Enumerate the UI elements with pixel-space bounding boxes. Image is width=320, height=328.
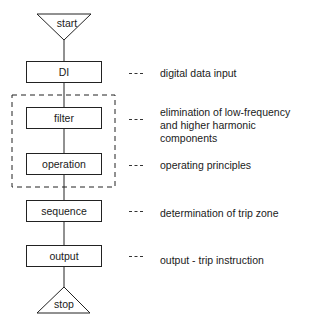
annotation-leader	[129, 165, 143, 166]
step-output: output	[26, 245, 102, 267]
stop-label: stop	[44, 298, 84, 310]
step-filter: filter	[26, 107, 102, 129]
step-sequence: sequence	[26, 200, 102, 222]
description-operation: operating principles	[160, 159, 300, 172]
step-label: operation	[42, 158, 86, 170]
step-label: output	[49, 250, 78, 262]
description-filter: elimination of low-frequency and higher …	[160, 106, 300, 145]
step-label: sequence	[41, 205, 87, 217]
start-label: start	[47, 17, 87, 29]
annotation-leader	[129, 256, 143, 257]
description-di: digital data input	[160, 67, 300, 80]
annotation-leader	[129, 73, 143, 74]
description-output: output - trip instruction	[160, 254, 300, 267]
annotation-leader	[129, 211, 143, 212]
step-label: DI	[59, 66, 70, 78]
annotation-leader	[129, 119, 143, 120]
step-label: filter	[54, 112, 74, 124]
description-sequence: determination of trip zone	[160, 207, 300, 220]
step-operation: operation	[26, 153, 102, 175]
step-di: DI	[26, 61, 102, 83]
